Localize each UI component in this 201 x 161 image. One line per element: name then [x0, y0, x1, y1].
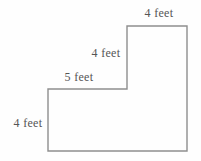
step-polygon-drawing [0, 0, 201, 161]
side-label-upper-left: 4 feet [88, 47, 124, 60]
step-polygon-outline [48, 26, 187, 151]
side-label-step: 5 feet [59, 71, 99, 84]
side-label-top: 4 feet [139, 7, 179, 20]
step-polygon-figure: 4 feet 4 feet 5 feet 4 feet [0, 0, 201, 161]
side-label-lower-left: 4 feet [9, 117, 47, 130]
